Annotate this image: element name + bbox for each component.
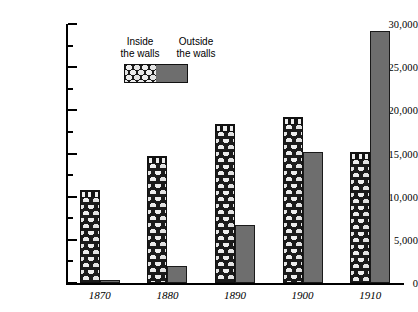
bar-outside-the-walls	[235, 225, 255, 283]
tower-masonry	[148, 163, 166, 282]
legend-swatch-outside-icon	[156, 65, 187, 82]
bar-inside-the-walls	[215, 124, 235, 283]
bar-chart: 05,00010,00015,00020,00025,00030,000 187…	[0, 0, 418, 312]
legend-swatch-inside-icon	[125, 65, 156, 82]
x-tick-label: 1910	[335, 289, 405, 301]
bar-inside-the-walls	[80, 190, 100, 283]
battlement-icon	[216, 125, 234, 132]
bar-outside-the-walls	[370, 31, 390, 283]
legend-outside-line1: Outside	[168, 36, 224, 48]
legend-label-outside: Outside the walls	[168, 36, 224, 60]
bar-inside-the-walls	[283, 117, 303, 283]
legend-inside-line1: Inside	[112, 36, 168, 48]
tower-masonry	[216, 131, 234, 282]
bar-inside-the-walls	[147, 156, 167, 283]
battlement-icon	[351, 153, 369, 160]
legend-label-inside: Inside the walls	[112, 36, 168, 60]
bar-outside-the-walls	[303, 152, 323, 283]
tower-masonry	[284, 124, 302, 282]
x-tick-label: 1890	[200, 289, 270, 301]
tower-masonry	[81, 197, 99, 282]
x-tick-label: 1900	[268, 289, 338, 301]
bar-outside-the-walls	[167, 266, 187, 283]
bar-inside-the-walls	[350, 152, 370, 283]
legend-outside-line2: the walls	[168, 48, 224, 60]
battlement-icon	[148, 157, 166, 164]
x-tick-label: 1880	[132, 289, 202, 301]
battlement-icon	[284, 118, 302, 125]
tower-masonry	[351, 159, 369, 282]
legend: Inside the walls Outside the walls	[112, 36, 224, 83]
x-axis-line	[66, 283, 404, 285]
x-tick-label: 1870	[65, 289, 135, 301]
battlement-icon	[81, 191, 99, 198]
legend-inside-line2: the walls	[112, 48, 168, 60]
legend-swatch	[124, 64, 188, 83]
bar-outside-the-walls	[100, 280, 120, 283]
